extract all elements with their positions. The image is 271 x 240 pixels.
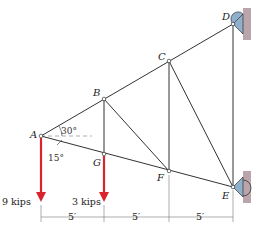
label-b: B [92,87,100,98]
label-f: F [156,172,165,183]
angle-30: 30° [61,126,77,136]
label-c: C [158,51,166,62]
dimension-fe: 5′ [196,211,204,222]
dimension-gf: 5′ [132,211,140,222]
load-arrows [36,138,109,202]
arrow-down-icon [36,192,46,202]
truss-diagram: A B C D G F E 30° 15° 9 kips 3 kips 5′ 5… [0,0,271,240]
label-e: E [221,190,230,201]
truss-members [41,24,233,187]
load-9-kips: 9 kips [2,196,31,207]
wall-lower [243,171,251,203]
wall-upper [243,8,251,40]
dimension-ag: 5′ [68,211,76,222]
label-a: A [29,129,37,140]
load-3-kips: 3 kips [72,196,101,207]
joints [39,22,235,189]
angle-15: 15° [48,153,64,163]
label-d: D [221,11,230,22]
label-g: G [93,157,101,168]
